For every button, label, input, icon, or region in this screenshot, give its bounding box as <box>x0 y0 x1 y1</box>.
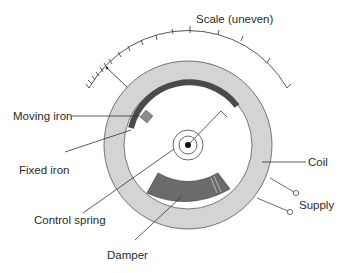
label-scale: Scale (uneven) <box>196 13 274 25</box>
label-moving-iron: Moving iron <box>13 110 72 122</box>
pointer-tip <box>106 67 109 70</box>
label-fixed-iron: Fixed iron <box>19 164 70 176</box>
moving-iron-instrument-diagram: Scale (uneven) Moving iron Fixed iron Co… <box>0 0 341 273</box>
supply-leads <box>257 178 299 215</box>
spindle <box>185 142 191 148</box>
diagram-canvas: Scale (uneven) Moving iron Fixed iron Co… <box>0 0 341 273</box>
label-damper: Damper <box>107 249 148 261</box>
supply-terminal-1 <box>293 190 298 195</box>
label-control-spring: Control spring <box>34 214 106 226</box>
label-supply: Supply <box>299 199 334 211</box>
supply-terminal-2 <box>287 209 292 214</box>
label-coil: Coil <box>308 156 328 168</box>
